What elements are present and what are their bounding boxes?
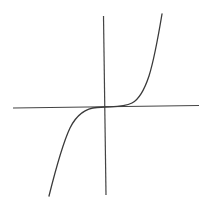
cubic-function-plot	[0, 0, 211, 209]
